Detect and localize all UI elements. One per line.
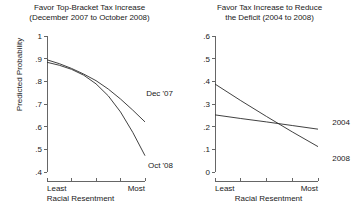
series-line-0 — [47, 60, 145, 122]
x-tick-label: Most — [301, 184, 319, 193]
y-tick-label: .6 — [203, 32, 210, 41]
series-line-1 — [47, 62, 145, 155]
y-tick-label: .5 — [35, 145, 42, 154]
y-tick-label: .6 — [35, 123, 42, 132]
y-tick-label: .7 — [35, 100, 42, 109]
chart-panel-tax-increase-reduce-deficit: Favor Tax Increase to Reduce the Deficit… — [180, 0, 359, 215]
x-tick-label: Least — [215, 184, 235, 193]
plot-area: .4.5.6.7.8.91LeastMostDec '07Oct '08 — [0, 0, 179, 215]
x-tick-label: Least — [47, 184, 67, 193]
y-tick-label: .2 — [203, 123, 210, 132]
chart-panel-top-bracket-tax-increase: Favor Top-Bracket Tax Increase (December… — [0, 0, 179, 215]
series-line-0 — [215, 115, 318, 129]
y-tick-label: .5 — [203, 55, 210, 64]
series-label-1: Oct '08 — [148, 161, 174, 170]
y-tick-label: 1 — [38, 32, 43, 41]
y-tick-label: .4 — [203, 77, 210, 86]
series-label-0: 2004 — [332, 118, 350, 127]
y-tick-label: .3 — [203, 100, 210, 109]
y-tick-label: .8 — [35, 77, 42, 86]
plot-area: 0.1.2.3.4.5.6LeastMost20042008 — [180, 0, 359, 215]
figure-root: Favor Top-Bracket Tax Increase (December… — [0, 0, 359, 215]
series-line-1 — [215, 84, 318, 147]
y-tick-label: 0 — [206, 168, 211, 177]
y-tick-label: .4 — [35, 168, 42, 177]
y-tick-label: .1 — [203, 145, 210, 154]
series-label-0: Dec '07 — [146, 89, 173, 98]
series-label-1: 2008 — [332, 154, 350, 163]
y-tick-label: .9 — [35, 55, 42, 64]
x-tick-label: Most — [128, 184, 146, 193]
